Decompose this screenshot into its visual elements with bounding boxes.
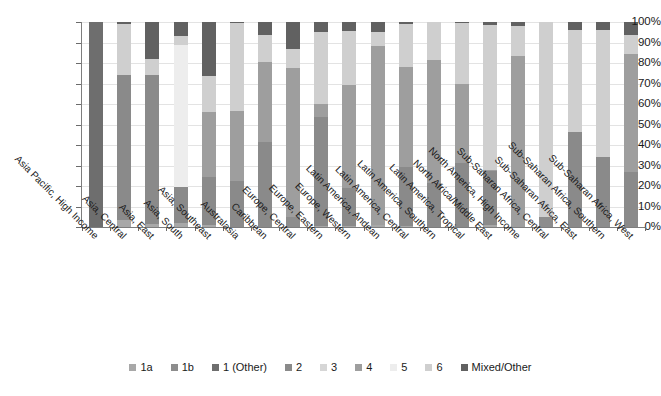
legend-item[interactable]: 1 (Other) [212, 362, 267, 373]
bar-stack[interactable] [455, 22, 469, 227]
bar-segment[interactable] [286, 68, 300, 217]
bar-segment[interactable] [230, 111, 244, 181]
bar-segment[interactable] [286, 217, 300, 227]
bar-segment[interactable] [117, 22, 131, 24]
bar-stack[interactable] [371, 22, 385, 227]
bar-segment[interactable] [455, 163, 469, 227]
bar-segment[interactable] [202, 76, 216, 112]
bar-segment[interactable] [342, 31, 356, 84]
bar-stack[interactable] [202, 22, 216, 227]
bar-segment[interactable] [342, 188, 356, 226]
bar-segment[interactable] [230, 181, 244, 227]
bar-segment[interactable] [455, 23, 469, 83]
bar-segment[interactable] [371, 22, 385, 32]
bar-segment[interactable] [314, 117, 328, 226]
bar-segment[interactable] [314, 22, 328, 32]
bar-segment[interactable] [596, 220, 610, 227]
bar-segment[interactable] [483, 170, 497, 171]
bar-stack[interactable] [286, 22, 300, 227]
bar-stack[interactable] [568, 22, 582, 227]
bar-segment[interactable] [174, 45, 188, 187]
legend-swatch-icon [171, 364, 178, 371]
bar-segment[interactable] [427, 183, 441, 227]
legend-item[interactable]: 1b [171, 362, 194, 373]
bar-stack[interactable] [596, 22, 610, 227]
bar-segment[interactable] [258, 35, 272, 62]
bar-segment[interactable] [286, 22, 300, 49]
bar-segment[interactable] [539, 22, 553, 217]
bar-segment[interactable] [371, 46, 385, 225]
bar-segment[interactable] [596, 30, 610, 157]
bar-segment[interactable] [483, 25, 497, 170]
bar-segment[interactable] [202, 112, 216, 177]
bar-segment[interactable] [342, 22, 356, 31]
bar-stack[interactable] [145, 22, 159, 227]
bar-segment[interactable] [511, 26, 525, 56]
bar-segment[interactable] [286, 49, 300, 68]
bar-segment[interactable] [427, 22, 441, 60]
bar-segment[interactable] [174, 36, 188, 44]
bar-segment[interactable] [455, 84, 469, 164]
bar-segment[interactable] [202, 177, 216, 225]
bar-segment[interactable] [568, 30, 582, 131]
bar-stack[interactable] [399, 22, 413, 227]
y-axis-tick-mark [76, 22, 81, 23]
bar-segment[interactable] [539, 217, 553, 227]
bar-segment[interactable] [399, 24, 413, 67]
bar-stack[interactable] [89, 22, 103, 227]
bar-segment[interactable] [483, 171, 497, 225]
x-axis-tick-mark [392, 227, 393, 231]
bar-segment[interactable] [455, 22, 469, 23]
bar-segment[interactable] [483, 22, 497, 25]
bar-stack[interactable] [117, 22, 131, 227]
bar-segment[interactable] [596, 157, 610, 220]
bar-segment[interactable] [511, 22, 525, 26]
bar-segment[interactable] [145, 22, 159, 59]
bar-segment[interactable] [399, 22, 413, 24]
legend-item[interactable]: 5 [390, 362, 407, 373]
bar-segment[interactable] [117, 220, 131, 227]
bar-segment[interactable] [568, 22, 582, 30]
bar-segment[interactable] [258, 62, 272, 142]
bar-segment[interactable] [258, 22, 272, 35]
bar-segment[interactable] [624, 54, 638, 172]
bar-segment[interactable] [230, 22, 244, 23]
bar-segment[interactable] [145, 75, 159, 224]
bar-segment[interactable] [230, 23, 244, 111]
legend-item[interactable]: 3 [320, 362, 337, 373]
bar-stack[interactable] [174, 22, 188, 227]
bar-segment[interactable] [371, 32, 385, 46]
bar-stack[interactable] [539, 22, 553, 227]
legend-item[interactable]: 6 [425, 362, 442, 373]
bar-segment[interactable] [342, 85, 356, 189]
bar-segment[interactable] [427, 60, 441, 183]
bar-segment[interactable] [314, 104, 328, 117]
legend-item[interactable]: 4 [355, 362, 372, 373]
legend-item[interactable]: 1a [129, 362, 152, 373]
legend-item[interactable]: Mixed/Other [461, 362, 532, 373]
bar-segment[interactable] [145, 59, 159, 75]
legend-item[interactable]: 2 [285, 362, 302, 373]
bar-segment[interactable] [568, 132, 582, 227]
bar-segment[interactable] [202, 22, 216, 76]
bar-segment[interactable] [399, 67, 413, 166]
bar-stack[interactable] [483, 22, 497, 227]
bar-segment[interactable] [511, 56, 525, 227]
bar-segment[interactable] [117, 24, 131, 75]
bar-segment[interactable] [174, 22, 188, 36]
y-axis-tick-label: 30% [617, 160, 661, 171]
bar-stack[interactable] [511, 22, 525, 227]
bar-segment[interactable] [89, 22, 103, 227]
bar-segment[interactable] [314, 32, 328, 104]
bar-segment[interactable] [596, 22, 610, 30]
bar-stack[interactable] [230, 22, 244, 227]
bar-stack[interactable] [314, 22, 328, 227]
x-axis-tick-mark [420, 227, 421, 231]
bar-segment[interactable] [258, 142, 272, 227]
bar-segment[interactable] [399, 167, 413, 226]
bar-stack[interactable] [258, 22, 272, 227]
bar-stack[interactable] [342, 22, 356, 227]
bar-segment[interactable] [174, 187, 188, 223]
bar-segment[interactable] [117, 75, 131, 220]
bar-stack[interactable] [427, 22, 441, 227]
